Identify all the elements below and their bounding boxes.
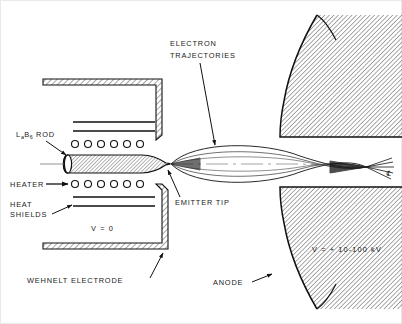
electron-trajectories-label-line1: ELECTRON (170, 39, 217, 48)
electron-trajectories-label-line2: TRAJECTORIES (170, 51, 236, 60)
wehnelt-electrode-label: WEHNELT ELECTRODE (27, 276, 123, 285)
anode-voltage-label: V = + 10-100 kV (312, 245, 382, 254)
electron-gun-diagram: ℄ LaB6ROD HEATER HEAT SHIELDS V = 0 WEHN… (0, 0, 402, 324)
heater-label: HEATER (10, 180, 44, 189)
heat-shields-label-line2: SHIELDS (10, 210, 47, 219)
diagram-canvas: ℄ LaB6ROD HEATER HEAT SHIELDS V = 0 WEHN… (0, 0, 402, 324)
anode-label: ANODE (213, 278, 243, 287)
lab6-rod-word: ROD (36, 130, 55, 139)
lab6-6: 6 (30, 134, 33, 140)
centerline-symbol: ℄ (386, 169, 392, 178)
heat-shields-label-line1: HEAT (10, 200, 32, 209)
emitter-tip-label: EMITTER TIP (175, 198, 230, 207)
wehnelt-voltage-label: V = 0 (91, 224, 114, 233)
